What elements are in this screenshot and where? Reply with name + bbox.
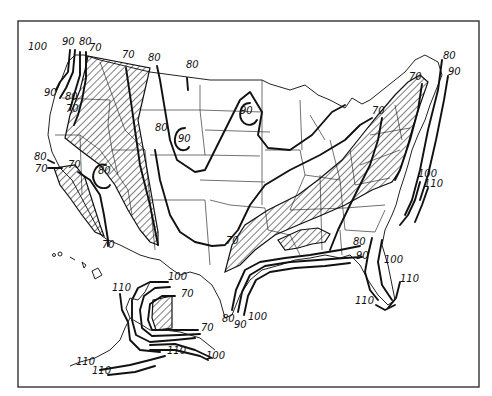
- contour-label: 80: [353, 236, 366, 247]
- hawaii-islands: [53, 252, 103, 279]
- isopleth-map: 100 90 80 70 90 80 70 70 80 80 80 90 90 …: [0, 0, 492, 396]
- contour-label: 70: [409, 71, 422, 82]
- contour-label: 70: [89, 42, 102, 53]
- contour-label: 110: [92, 365, 111, 376]
- contour-label: 80: [34, 151, 47, 162]
- contour-label: 110: [400, 273, 419, 284]
- contour-label: 70: [226, 235, 239, 246]
- contour-label: 80: [222, 313, 235, 324]
- contour-label: 80: [98, 165, 111, 176]
- contour-label: 100: [168, 271, 187, 282]
- contour-label: 90: [240, 105, 253, 116]
- contour-label: 80: [443, 50, 456, 61]
- contour-label: 90: [448, 66, 461, 77]
- contour-label: 80: [65, 91, 78, 102]
- contour-label: 70: [35, 163, 48, 174]
- contour-label: 100: [206, 350, 225, 361]
- contour-label: 70: [372, 105, 385, 116]
- contour-label: 90: [44, 87, 57, 98]
- contour-label: 90: [62, 36, 75, 47]
- contour-label: 70: [102, 239, 115, 250]
- contour-label: 90: [178, 133, 191, 144]
- contour-label: 70: [66, 103, 79, 114]
- hatched-region-pacific-northwest: [65, 56, 158, 245]
- contour-label: 100: [248, 311, 267, 322]
- contour-label: 110: [355, 295, 374, 306]
- contour-label: 100: [28, 41, 47, 52]
- contour-label: 110: [112, 282, 131, 293]
- contour-label: 70: [122, 49, 135, 60]
- contour-label: 90: [234, 319, 247, 330]
- contour-label: 70: [68, 159, 81, 170]
- contour-label: 70: [181, 288, 194, 299]
- hatched-region-california: [54, 165, 104, 236]
- contour-label: 90: [356, 250, 369, 261]
- contour-label: 110: [167, 345, 186, 356]
- contour-label: 80: [186, 59, 199, 70]
- contour-label: 70: [201, 322, 214, 333]
- contour-label: 110: [424, 178, 443, 189]
- contour-label: 80: [148, 52, 161, 63]
- contour-label: 80: [155, 122, 168, 133]
- contour-label: 100: [384, 254, 403, 265]
